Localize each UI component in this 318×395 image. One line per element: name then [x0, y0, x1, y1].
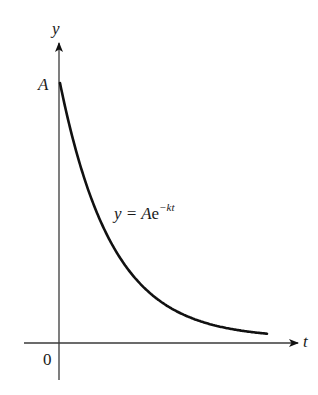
y-axis-label: y [52, 20, 60, 37]
origin-label: 0 [43, 351, 52, 368]
equation-lhs: y = A [114, 204, 152, 223]
equation-exponent: −kt [159, 201, 174, 213]
equation-label: y = Ae−kt [114, 205, 175, 222]
intercept-label: A [38, 76, 48, 93]
plot-canvas [0, 0, 318, 395]
exponential-decay-figure: y A 0 t y = Ae−kt [0, 0, 318, 395]
x-axis-label: t [303, 333, 308, 350]
